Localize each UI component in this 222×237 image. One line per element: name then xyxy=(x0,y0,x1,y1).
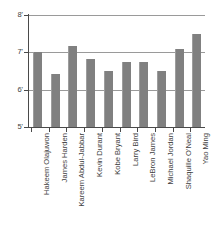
x-axis-label: Kobe Bryant xyxy=(112,133,120,175)
bar xyxy=(104,71,113,127)
bar xyxy=(139,62,148,127)
x-axis-label: LeBron James xyxy=(147,133,155,182)
x-axis-label: James Harden xyxy=(59,133,67,182)
x-axis-label: Larry Bird xyxy=(130,133,138,166)
x-tick xyxy=(120,127,121,132)
x-axis-label-text: Michael Jordan xyxy=(167,133,175,185)
y-tick-label-5: 5' xyxy=(1,123,23,131)
x-axis-label-text: Kareem Abdul-Jabbar xyxy=(78,133,86,206)
bar xyxy=(86,59,95,127)
x-axis-label-text: Hakeem Olajuwon xyxy=(43,133,51,195)
bar xyxy=(51,74,60,127)
x-axis-label-text: LeBron James xyxy=(149,133,157,182)
bar xyxy=(157,71,166,127)
y-axis-labels: 8' 7' 6' 5' xyxy=(0,0,23,237)
x-tick xyxy=(49,127,50,132)
x-axis-label-text: Larry Bird xyxy=(132,133,140,166)
bar xyxy=(122,62,131,127)
x-axis-label-text: Kobe Bryant xyxy=(114,133,122,175)
x-axis-labels: Hakeem OlajuwonJames HardenKareem Abdul-… xyxy=(28,133,205,237)
x-tick xyxy=(102,127,103,132)
x-tick xyxy=(137,127,138,132)
y-tick-label-7: 7' xyxy=(1,48,23,56)
bar xyxy=(33,52,42,127)
x-tick xyxy=(66,127,67,132)
bar xyxy=(192,34,201,127)
x-axis-label-text: Shaquille O'Neal xyxy=(185,133,193,189)
x-axis-label: Michael Jordan xyxy=(165,133,173,185)
y-tick-label-6: 6' xyxy=(1,86,23,94)
x-axis-label-text: Kevin Durant xyxy=(96,133,104,177)
bar xyxy=(175,49,184,127)
bar-series xyxy=(28,15,205,127)
x-tick xyxy=(190,127,191,132)
x-axis-label: Yao Ming xyxy=(200,133,208,165)
bar-chart: 8' 7' 6' 5' Hakeem OlajuwonJames HardenK… xyxy=(0,0,222,237)
x-axis-label: Kevin Durant xyxy=(94,133,102,177)
y-tick-label-8: 8' xyxy=(1,11,23,19)
x-tick xyxy=(173,127,174,132)
bar xyxy=(68,46,77,127)
x-axis-label-text: Yao Ming xyxy=(202,133,210,165)
x-axis-label: Kareem Abdul-Jabbar xyxy=(76,133,84,206)
x-tick xyxy=(84,127,85,132)
x-tick xyxy=(155,127,156,132)
x-axis-label-text: James Harden xyxy=(61,133,69,182)
x-axis-label: Shaquille O'Neal xyxy=(183,133,191,189)
x-axis-label: Hakeem Olajuwon xyxy=(41,133,49,195)
x-tick xyxy=(31,127,32,132)
